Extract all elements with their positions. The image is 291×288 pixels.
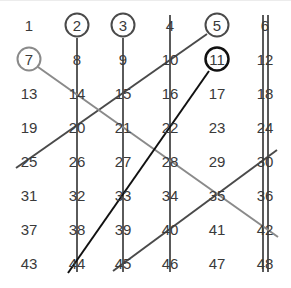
number-cell: 6 bbox=[261, 17, 269, 34]
number-cell: 48 bbox=[257, 255, 274, 272]
number-cell: 33 bbox=[115, 187, 132, 204]
number-cell: 7 bbox=[25, 51, 33, 68]
number-cell: 29 bbox=[209, 153, 226, 170]
number-cell: 31 bbox=[21, 187, 38, 204]
number-cell: 17 bbox=[209, 85, 226, 102]
number-cell: 1 bbox=[25, 17, 33, 34]
number-cell: 12 bbox=[257, 51, 274, 68]
number-cell: 2 bbox=[73, 17, 81, 34]
strike-lines bbox=[16, 15, 278, 273]
number-cell: 32 bbox=[69, 187, 86, 204]
number-cell: 23 bbox=[209, 119, 226, 136]
number-cell: 13 bbox=[21, 85, 38, 102]
number-cell: 45 bbox=[115, 255, 132, 272]
strike-line-multiples-of-5-b bbox=[113, 150, 277, 271]
number-cell: 37 bbox=[21, 221, 38, 238]
number-cell: 42 bbox=[257, 221, 274, 238]
number-cell: 11 bbox=[209, 51, 225, 68]
number-cell: 5 bbox=[213, 17, 221, 34]
number-cell: 43 bbox=[21, 255, 38, 272]
number-cell: 19 bbox=[21, 119, 38, 136]
number-cell: 30 bbox=[257, 153, 274, 170]
number-cell: 46 bbox=[162, 255, 179, 272]
number-cell: 3 bbox=[119, 17, 127, 34]
number-cell: 24 bbox=[257, 119, 274, 136]
number-cell: 38 bbox=[69, 221, 86, 238]
number-cell: 18 bbox=[257, 85, 274, 102]
number-cell: 34 bbox=[162, 187, 179, 204]
sieve-canvas: 1234567891011121314151617181920212223242… bbox=[0, 0, 291, 288]
number-cell: 26 bbox=[69, 153, 86, 170]
number-cell: 16 bbox=[162, 85, 179, 102]
number-cell: 25 bbox=[21, 153, 38, 170]
number-cell: 36 bbox=[257, 187, 274, 204]
number-cell: 35 bbox=[209, 187, 226, 204]
number-cell: 47 bbox=[209, 255, 226, 272]
number-cell: 14 bbox=[69, 85, 86, 102]
number-cell: 39 bbox=[115, 221, 132, 238]
number-cell: 9 bbox=[119, 51, 127, 68]
number-cell: 4 bbox=[166, 17, 174, 34]
number-cell: 41 bbox=[209, 221, 226, 238]
number-cell: 40 bbox=[162, 221, 179, 238]
strike-line-multiples-of-5-a bbox=[16, 34, 207, 168]
sieve-diagram: 1234567891011121314151617181920212223242… bbox=[0, 0, 291, 288]
number-cell: 8 bbox=[73, 51, 81, 68]
number-cell: 22 bbox=[162, 119, 179, 136]
number-cell: 15 bbox=[115, 85, 132, 102]
number-cell: 44 bbox=[69, 255, 86, 272]
number-cell: 10 bbox=[162, 51, 179, 68]
number-cell: 27 bbox=[115, 153, 132, 170]
number-cell: 20 bbox=[69, 119, 86, 136]
number-cell: 21 bbox=[115, 119, 132, 136]
number-cell: 28 bbox=[162, 153, 179, 170]
